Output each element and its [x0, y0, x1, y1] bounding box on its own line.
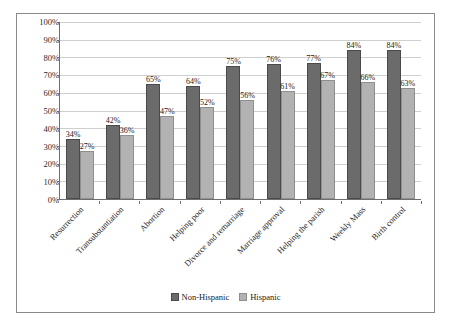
- bar[interactable]: 47%: [160, 116, 174, 199]
- bar-value-label: 36%: [120, 127, 135, 135]
- legend-swatch-icon: [239, 293, 247, 301]
- chart-legend: Non-HispanicHispanic: [17, 293, 434, 302]
- x-axis-category-labels: ResurrectionTransubstantiationAbortionHe…: [59, 201, 421, 293]
- x-axis-category-label: Abortion: [138, 205, 166, 233]
- bar[interactable]: 75%: [226, 66, 240, 199]
- plot-area: 34%27%42%36%65%47%64%52%75%56%76%61%77%6…: [59, 22, 421, 200]
- x-axis-category-label: Resurrection: [48, 205, 85, 242]
- x-axis-category: Weekly Mass: [341, 201, 381, 293]
- bar[interactable]: 77%: [307, 63, 321, 199]
- x-axis-tick-mark: [421, 201, 422, 204]
- bar[interactable]: 67%: [321, 80, 335, 199]
- bar[interactable]: 84%: [387, 50, 401, 199]
- chart-frame: 0%10%20%30%40%50%60%70%80%90%100% 34%27%…: [16, 13, 435, 313]
- bar[interactable]: 52%: [200, 107, 214, 199]
- bar[interactable]: 61%: [281, 91, 295, 199]
- bar-value-label: 47%: [160, 108, 175, 116]
- bar[interactable]: 56%: [240, 100, 254, 199]
- bar-group: 42%36%: [100, 22, 140, 199]
- bar[interactable]: 66%: [361, 82, 375, 199]
- bar-value-label: 66%: [360, 74, 375, 82]
- bar-value-label: 52%: [200, 99, 215, 107]
- bar-group: 76%61%: [261, 22, 301, 199]
- x-axis-category: Helping the parish: [300, 201, 340, 293]
- bar-value-label: 27%: [80, 143, 95, 151]
- bar[interactable]: 63%: [401, 88, 415, 200]
- bar-value-label: 64%: [186, 78, 201, 86]
- y-axis-tick-label: 0%: [48, 196, 59, 205]
- bar[interactable]: 76%: [267, 64, 281, 199]
- bar-value-label: 76%: [266, 56, 281, 64]
- legend-entry[interactable]: Non-Hispanic: [171, 293, 230, 302]
- bar-group: 84%63%: [381, 22, 421, 199]
- bar[interactable]: 36%: [120, 135, 134, 199]
- legend-label: Non-Hispanic: [182, 293, 230, 302]
- bar-value-label: 34%: [66, 131, 81, 139]
- bar[interactable]: 84%: [347, 50, 361, 199]
- bar-value-label: 84%: [346, 42, 361, 50]
- bar[interactable]: 42%: [106, 125, 120, 199]
- y-axis-tick-mark: [57, 199, 60, 200]
- legend-swatch-icon: [171, 293, 179, 301]
- legend-label: Hispanic: [250, 293, 280, 302]
- plot-wrap: 0%10%20%30%40%50%60%70%80%90%100% 34%27%…: [17, 14, 434, 312]
- bar-value-label: 42%: [106, 117, 121, 125]
- bar[interactable]: 27%: [80, 151, 94, 199]
- bar-groups: 34%27%42%36%65%47%64%52%75%56%76%61%77%6…: [60, 22, 421, 199]
- bar-value-label: 67%: [320, 72, 335, 80]
- bar-value-label: 56%: [240, 92, 255, 100]
- x-axis-category: Transubstantiation: [99, 201, 139, 293]
- bar-value-label: 75%: [226, 58, 241, 66]
- x-axis-category: Birth control: [381, 201, 421, 293]
- bar-value-label: 65%: [146, 76, 161, 84]
- bar-value-label: 77%: [306, 55, 321, 63]
- bar[interactable]: 65%: [146, 84, 160, 199]
- bar-group: 65%47%: [140, 22, 180, 199]
- bar[interactable]: 34%: [66, 139, 80, 199]
- bar-group: 75%56%: [220, 22, 260, 199]
- x-axis-category: Abortion: [139, 201, 179, 293]
- bar-value-label: 63%: [401, 80, 416, 88]
- bar-group: 77%67%: [301, 22, 341, 199]
- bar-value-label: 84%: [387, 42, 402, 50]
- bar-group: 34%27%: [60, 22, 100, 199]
- bar-value-label: 61%: [280, 83, 295, 91]
- legend-entry[interactable]: Hispanic: [239, 293, 280, 302]
- bar-group: 84%66%: [341, 22, 381, 199]
- bar[interactable]: 64%: [186, 86, 200, 199]
- bar-group: 64%52%: [180, 22, 220, 199]
- y-axis-tick-labels: 0%10%20%30%40%50%60%70%80%90%100%: [23, 22, 59, 200]
